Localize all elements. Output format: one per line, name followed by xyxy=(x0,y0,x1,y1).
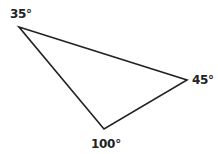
angle-label-right: 45° xyxy=(192,74,214,86)
triangle-shape xyxy=(19,27,187,129)
angle-label-bottom: 100° xyxy=(91,138,121,150)
angle-label-top-left: 35° xyxy=(10,8,32,20)
triangle-diagram xyxy=(0,0,218,154)
